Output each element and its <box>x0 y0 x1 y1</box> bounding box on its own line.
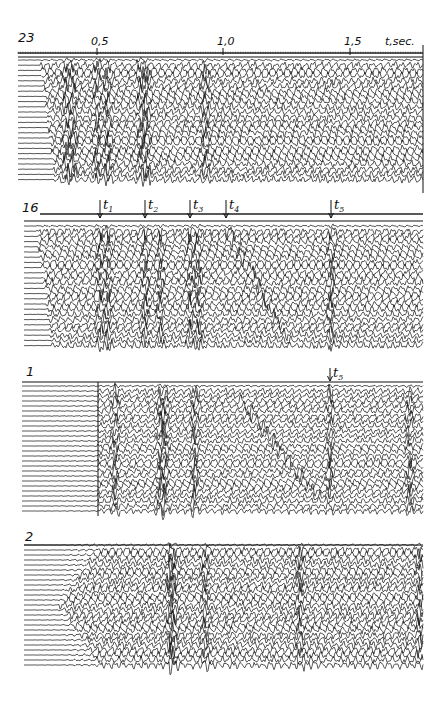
panel-label-1: 1 <box>26 365 34 378</box>
panel-label-16: 16 <box>22 201 39 214</box>
seismogram-traces <box>0 0 446 705</box>
seismogram-figure: 23 16 1 2 0,5 1,0 1,5 t,sec. t1t2t3t4t5t… <box>0 0 446 705</box>
marker-label-t5: t5 <box>334 198 344 214</box>
x-axis-label: t,sec. <box>385 36 415 47</box>
marker-label-t2: t2 <box>148 198 158 214</box>
marker-arrow-t5 <box>329 200 334 218</box>
marker-label-t4: t4 <box>229 198 239 214</box>
panel-label-23: 23 <box>18 31 35 44</box>
panel-16 <box>24 214 423 352</box>
panel-1 <box>22 382 423 520</box>
x-tick-1-0: 1,0 <box>217 36 235 47</box>
marker-arrow-t5 <box>328 368 333 381</box>
panel-label-2: 2 <box>25 530 33 543</box>
marker-label-t5: t5 <box>333 366 343 382</box>
marker-label-t3: t3 <box>193 198 203 214</box>
marker-arrow-t2 <box>143 200 148 218</box>
panel-23 <box>18 45 423 193</box>
marker-arrow-t1 <box>98 200 103 218</box>
panel-2 <box>24 543 423 675</box>
marker-label-t1: t1 <box>103 198 113 214</box>
x-tick-1-5: 1,5 <box>344 36 362 47</box>
marker-arrow-t4 <box>224 200 229 218</box>
marker-arrow-t3 <box>188 200 193 218</box>
x-tick-0-5: 0,5 <box>91 36 109 47</box>
